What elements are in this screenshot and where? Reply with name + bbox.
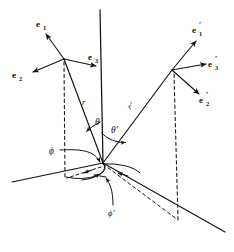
- svg-text:′: ′: [215, 55, 217, 64]
- label-theta: θ: [95, 117, 100, 127]
- svg-text:1: 1: [199, 30, 202, 37]
- azimuth-arc-right-arrowhead: [118, 173, 128, 176]
- svg-text:e: e: [36, 19, 40, 29]
- svg-text:3: 3: [215, 64, 218, 71]
- label-r: r: [82, 97, 86, 107]
- label-phi: ϕ: [49, 146, 54, 156]
- svg-text:e: e: [208, 59, 212, 69]
- label-phi-prime: ϕ′: [108, 208, 114, 218]
- label-theta-prime: θ′: [111, 125, 119, 135]
- svg-text:′: ′: [199, 21, 201, 30]
- radius-vector-r-prime: [103, 70, 172, 163]
- svg-text:2: 2: [19, 75, 22, 82]
- label-e1: e 1: [36, 19, 46, 31]
- left-triad-e1-arrow: [46, 34, 64, 59]
- right-dashed-projection: [174, 74, 178, 219]
- right-triad-e2-prime-arrow: [172, 70, 199, 94]
- svg-text:e: e: [199, 95, 203, 105]
- svg-text:e: e: [192, 25, 196, 35]
- ground-axis-lower-right: [103, 163, 225, 232]
- right-triad-e3-prime-arrow: [172, 64, 206, 70]
- right-triad-e1-prime-arrow: [172, 41, 196, 70]
- left-dashed-projection: [64, 62, 65, 177]
- phi-leader-curve: [60, 150, 100, 162]
- svg-text:e: e: [12, 70, 16, 80]
- svg-text:1: 1: [43, 24, 46, 31]
- phi-prime-leader-curve: [106, 178, 113, 205]
- svg-text:e: e: [88, 52, 92, 62]
- phi-arc-arrowhead: [84, 170, 92, 173]
- label-e1-prime: e 1 ′: [192, 21, 202, 37]
- label-e2: e 2: [12, 70, 22, 82]
- label-e3-prime: e 3 ′: [208, 55, 218, 71]
- svg-text:3: 3: [95, 57, 98, 64]
- vector-diagram-figure: e 1 e 2 e 3 e 1 ′ e 3 ′ e 2 ′: [0, 0, 234, 252]
- left-triad-e2-arrow: [33, 59, 64, 72]
- label-e3: e 3: [88, 52, 98, 64]
- label-r-prime: r′: [125, 100, 136, 112]
- radius-vector-r: [64, 59, 103, 163]
- svg-text:2: 2: [206, 100, 209, 107]
- svg-text:′: ′: [206, 91, 208, 100]
- diagram-canvas: e 1 e 2 e 3 e 1 ′ e 3 ′ e 2 ′: [0, 0, 234, 252]
- vertical-polar-axis: [100, 10, 103, 163]
- label-e2-prime: e 2 ′: [199, 91, 209, 107]
